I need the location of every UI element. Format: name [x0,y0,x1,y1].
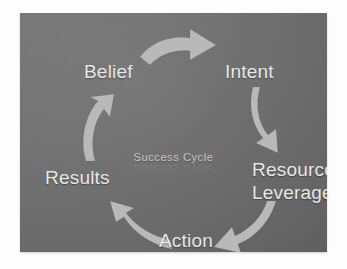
success-cycle-diagram-panel: Success Cycle Success Cycle Belief Inten… [20,13,327,252]
node-label-results: Results [45,166,110,189]
node-label-resource-leverage: Resource Leverage [252,158,327,204]
node-label-belief: Belief [84,60,133,83]
arrow-resource-to-action-icon [210,199,280,252]
node-label-action: Action [159,229,213,252]
arrow-intent-to-resource-icon [242,85,304,155]
arrow-belief-to-intent-icon [138,27,218,69]
node-label-intent: Intent [225,60,274,83]
screenshot-root: Success Cycle Success Cycle Belief Inten… [0,0,347,269]
